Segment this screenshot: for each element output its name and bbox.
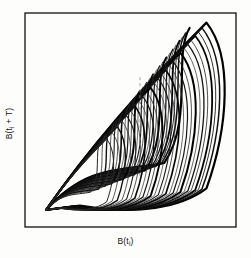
y-axis-label-main: B(t <box>4 128 14 139</box>
phase-portrait-plot <box>0 0 251 258</box>
y-axis-label: B(ti + T) <box>4 94 15 154</box>
x-axis-label-tail: ) <box>131 236 134 246</box>
y-axis-label-tail: + T) <box>4 108 14 127</box>
x-axis-label: B(ti) <box>0 236 251 247</box>
x-axis-label-main: B(t <box>117 236 128 246</box>
attractor-figure: B(ti) B(ti + T) <box>0 0 251 258</box>
